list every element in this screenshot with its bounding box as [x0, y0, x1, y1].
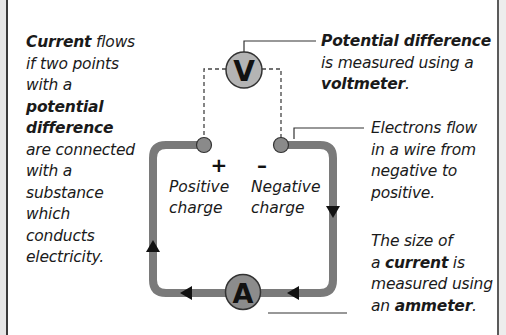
negative-charge-label: Negative charge — [251, 177, 321, 219]
term-potential-difference: Potential difference — [321, 32, 491, 50]
negative-sign: – — [257, 153, 267, 177]
voltmeter-caption: Potential difference is measured using a… — [321, 31, 491, 96]
electrons-caption: Electrons flow in a wire from negative t… — [371, 118, 477, 204]
positive-terminal — [197, 138, 212, 153]
voltmeter-symbol: V — [233, 55, 255, 88]
term-ammeter: ammeter — [395, 297, 472, 315]
arrow-left-icon — [180, 286, 192, 300]
voltmeter-wire-right — [262, 69, 281, 138]
electrons-leader-line — [294, 128, 364, 139]
term-current: current — [385, 254, 448, 272]
arrow-left-icon — [287, 286, 299, 300]
negative-terminal — [274, 138, 289, 153]
positive-charge-label: Positive charge — [169, 177, 229, 219]
circuit-wire — [153, 145, 333, 293]
negative-label-line: Negative — [251, 177, 321, 198]
term-voltmeter: voltmeter — [321, 75, 405, 93]
voltmeter-wire-left — [204, 69, 226, 138]
arrow-up-icon — [146, 240, 160, 252]
voltmeter-leader-line — [244, 41, 316, 52]
term-current: Current — [26, 33, 91, 51]
term-potential: potential — [26, 98, 103, 116]
negative-label-line: charge — [251, 198, 321, 219]
ammeter-caption: The size of a current is measured using … — [371, 231, 493, 317]
current-explanation: Current flows if two points with a poten… — [26, 32, 135, 269]
positive-label-line: Positive — [169, 177, 229, 198]
term-difference: difference — [26, 119, 113, 137]
ammeter-symbol: A — [233, 278, 254, 309]
positive-sign: + — [211, 153, 228, 177]
arrow-down-icon — [326, 206, 340, 218]
positive-label-line: charge — [169, 198, 229, 219]
